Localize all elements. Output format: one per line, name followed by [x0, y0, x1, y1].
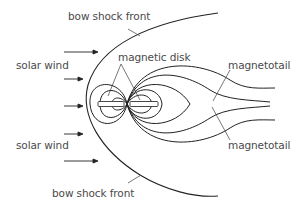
bow-shock-bottom-leader [128, 175, 141, 183]
label-bow-shock-bottom: bow shock front [52, 188, 134, 199]
diagram-drawing [0, 0, 296, 207]
label-magnetotail-top: magnetotail [228, 60, 290, 71]
magnetotail-bottom-leader [212, 107, 230, 140]
label-bow-shock-top: bow shock front [68, 11, 150, 22]
magnetosphere-diagram: bow shock front bow shock front solar wi… [0, 0, 296, 207]
label-solar-wind-top: solar wind [16, 60, 69, 71]
label-solar-wind-bottom: solar wind [16, 140, 69, 151]
label-magnetotail-bottom: magnetotail [228, 140, 290, 151]
bow-shock-top-leader [128, 29, 140, 36]
solar-wind-arrows [64, 50, 98, 163]
label-magnetic-disk: magnetic disk [118, 52, 190, 63]
